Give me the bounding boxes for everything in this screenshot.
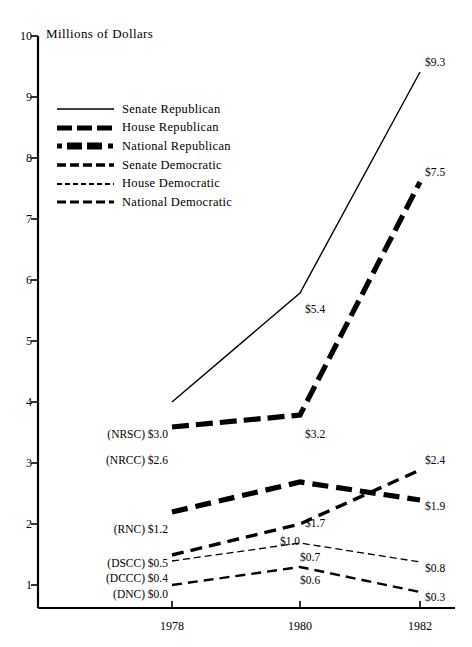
- point-label-dscc-1980: $1.0: [280, 535, 300, 547]
- legend-swatch-dashed-thick-icon: [57, 122, 114, 134]
- legend-swatch-dotted-thin-icon: [57, 178, 114, 190]
- point-label-dccc-1978: (DCCC) $0.4: [106, 572, 168, 584]
- series-line-house-republican: [172, 182, 420, 427]
- point-label-nrsc-1978: (NRSC) $3.0: [107, 428, 168, 440]
- point-label-dccc-1982: $0.8: [425, 562, 445, 574]
- point-label-nrsc-1982: $9.3: [425, 56, 445, 68]
- legend-item-senate-republican: Senate Republican: [57, 100, 287, 119]
- legend-label: National Republican: [114, 139, 231, 154]
- series-line-national-democratic: [172, 567, 420, 592]
- legend-item-house-republican: House Republican: [57, 119, 287, 138]
- point-label-rnc-1980: $1.7: [305, 517, 325, 529]
- chart-plot-area: [0, 0, 472, 647]
- legend-item-national-democratic: National Democratic: [57, 193, 287, 212]
- legend-label: Senate Democratic: [114, 158, 222, 173]
- point-label-dccc-1980: $0.7: [300, 551, 320, 563]
- legend-item-senate-democratic: Senate Democratic: [57, 156, 287, 175]
- legend-swatch-dashed-thick-square-icon: [57, 140, 114, 152]
- point-label-dnc-1980: $0.6: [300, 574, 320, 586]
- legend-label: National Democratic: [114, 195, 232, 210]
- point-label-rnc-1978: (RNC) $1.2: [114, 523, 168, 535]
- chart-legend: Senate Republican House Republican Natio…: [57, 100, 287, 212]
- legend-label: House Republican: [114, 120, 219, 135]
- point-label-rnc-1982: $1.9: [425, 500, 445, 512]
- legend-label: Senate Republican: [114, 102, 220, 117]
- point-label-dnc-1978: (DNC) $0.0: [113, 588, 168, 600]
- legend-swatch-solid-thin-icon: [57, 103, 114, 115]
- series-line-national-republican: [172, 482, 420, 512]
- legend-item-national-republican: National Republican: [57, 137, 287, 156]
- legend-swatch-dashed-medium-icon: [57, 159, 114, 171]
- legend-item-house-democratic: House Democratic: [57, 174, 287, 193]
- legend-swatch-dashed-fine-icon: [57, 196, 114, 208]
- legend-label: House Democratic: [114, 176, 220, 191]
- point-label-dnc-1982: $0.3: [425, 591, 445, 603]
- point-label-dscc-1978: (DSCC) $0.5: [107, 557, 168, 569]
- point-label-nrcc-1980: $3.2: [305, 428, 325, 440]
- point-label-dscc-1982: $2.4: [425, 454, 445, 466]
- point-label-nrcc-1978: (NRCC) $2.6: [106, 454, 168, 466]
- point-label-nrcc-1982: $7.5: [425, 166, 445, 178]
- point-label-nrsc-1980: $5.4: [305, 303, 325, 315]
- chart-figure: Millions of Dollars 10 9 8 7 6 5 4 3 2 1…: [0, 0, 472, 647]
